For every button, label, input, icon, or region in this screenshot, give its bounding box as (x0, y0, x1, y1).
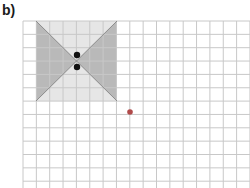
grid-diagram (0, 0, 250, 188)
black-dot-upper (74, 52, 80, 58)
black-dot-lower (74, 64, 80, 70)
red-dot (127, 109, 133, 115)
